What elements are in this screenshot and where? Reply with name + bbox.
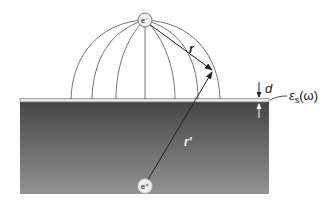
label-d: d <box>265 81 273 96</box>
vector-r <box>145 21 212 70</box>
image-charge: e⁺ <box>138 179 152 193</box>
label-epsilon: εs(ω) <box>289 88 318 105</box>
label-r-prime: r′ <box>184 135 193 149</box>
label-r: r <box>189 42 195 56</box>
epsilon-leader <box>270 96 287 100</box>
electron-symbol: e⁻ <box>141 16 149 25</box>
electron-charge: e⁻ <box>138 13 152 27</box>
surface-layer <box>20 99 269 103</box>
diagram-canvas: e⁻ e⁺ r r′ d εs(ω) <box>0 0 334 207</box>
image-charge-symbol: e⁺ <box>141 182 149 191</box>
